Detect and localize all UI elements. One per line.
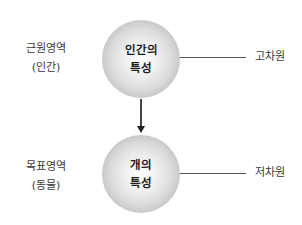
source-level-connector	[180, 57, 246, 58]
target-domain-subtitle: (동물)	[6, 176, 86, 195]
source-node-sphere: 인간의 특성	[102, 20, 180, 98]
target-domain-title: 목표영역	[6, 157, 86, 176]
target-level-connector	[180, 173, 246, 174]
arrow-down-icon	[137, 126, 145, 133]
source-node-line1: 인간의	[125, 41, 158, 59]
source-domain-title: 근원영역	[6, 39, 86, 58]
mapping-arrow-shaft	[140, 99, 142, 127]
high-level-label: 고차원	[255, 50, 285, 64]
target-domain-label: 목표영역 (동물)	[6, 157, 86, 195]
low-level-label: 저차원	[255, 166, 285, 180]
source-domain-label: 근원영역 (인간)	[6, 39, 86, 77]
target-node-line2: 특성	[130, 174, 152, 192]
source-domain-subtitle: (인간)	[6, 58, 86, 77]
target-node-sphere: 개의 특성	[102, 135, 180, 213]
target-node-line1: 개의	[130, 156, 152, 174]
source-node-line2: 특성	[130, 59, 152, 77]
mapping-diagram: 근원영역 (인간) 목표영역 (동물) 인간의 특성 개의 특성 고차원 저차원	[0, 0, 302, 225]
